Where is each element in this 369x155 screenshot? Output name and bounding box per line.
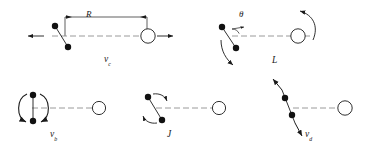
open-circle-body: [212, 101, 225, 114]
dumbbell-rod: [55, 26, 68, 47]
filled-dot: [30, 92, 36, 98]
open-circle-body: [338, 101, 352, 115]
dumbbell-rod: [282, 90, 295, 123]
panel-J-symbol: J: [167, 129, 171, 139]
dumbbell-rod: [222, 27, 236, 48]
open-circle-body: [291, 29, 305, 43]
filled-dot: [233, 45, 239, 51]
panel-vb-label: vb: [50, 130, 57, 142]
panel-vc-subscript: c: [108, 61, 111, 67]
panel-J-label: J: [167, 130, 171, 142]
filled-dot: [52, 23, 58, 29]
rotation-arrow-lower: [221, 40, 233, 65]
dimension-line-R: [65, 15, 147, 36]
filled-dot: [159, 117, 165, 123]
panel-vd: [273, 79, 352, 136]
panel-vb-subscript: b: [54, 136, 57, 142]
angle-arc: [232, 29, 239, 34]
panel-vd-label: vd: [305, 130, 312, 142]
panel-L: [219, 11, 316, 65]
filled-dot: [219, 24, 225, 30]
panel-vd-subscript: d: [309, 136, 312, 142]
panel-L-symbol: L: [272, 55, 277, 65]
filled-dot: [289, 112, 295, 118]
spin-arrow-upper: [153, 94, 167, 101]
theta-label: θ: [239, 10, 243, 19]
filled-dot: [65, 44, 71, 50]
panel-vc-label: vc: [104, 55, 111, 67]
dumbbell-rod: [148, 97, 162, 120]
filled-dot: [145, 94, 151, 100]
open-circle-body: [141, 29, 155, 43]
stretch-arrow-upper: [273, 79, 282, 90]
panel-L-label: L: [272, 56, 277, 68]
filled-dot: [282, 95, 288, 101]
spin-arrow-lower: [143, 116, 157, 123]
theta-indicator-arrow: [232, 27, 244, 29]
panel-vc: [28, 15, 173, 50]
panel-J: [143, 94, 226, 123]
breathing-arc-left: [19, 94, 27, 122]
filled-dot: [30, 118, 36, 124]
open-circle-body: [92, 101, 105, 114]
separation-label: R: [86, 10, 92, 19]
stretch-arrow-lower: [295, 123, 302, 136]
panel-vb: [19, 92, 106, 124]
